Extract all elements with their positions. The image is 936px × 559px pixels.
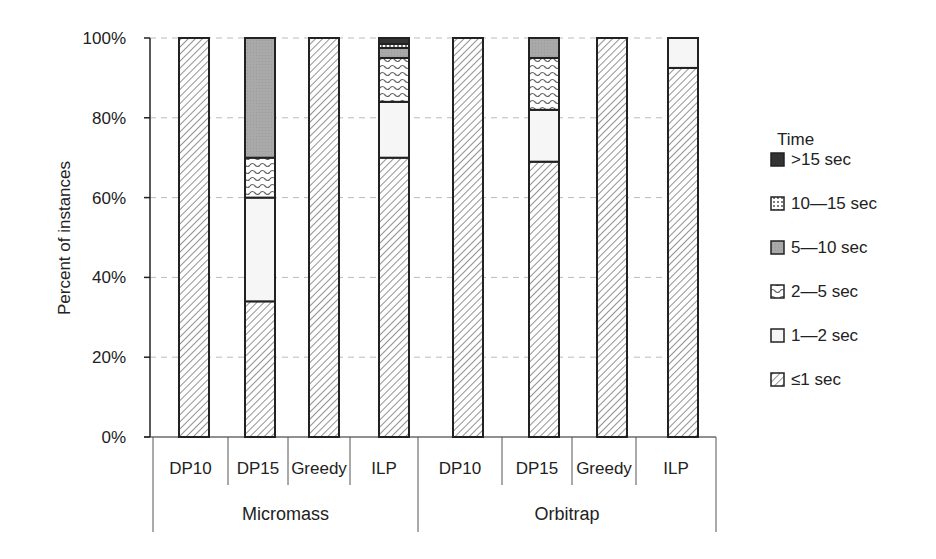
bar-segment bbox=[379, 38, 409, 44]
x-group-label: Orbitrap bbox=[534, 504, 599, 524]
bar-stack bbox=[453, 38, 483, 437]
bar-segment bbox=[529, 38, 559, 58]
bar-stack bbox=[597, 38, 627, 437]
x-category-label: DP15 bbox=[237, 459, 280, 478]
x-category-label: DP10 bbox=[439, 459, 482, 478]
bar-segment bbox=[597, 38, 627, 437]
legend-item-label: ≤1 sec bbox=[791, 370, 841, 389]
bar-segment bbox=[453, 38, 483, 437]
x-category-label: DP10 bbox=[169, 459, 212, 478]
bar-stack bbox=[379, 38, 409, 437]
bar-stack bbox=[309, 38, 339, 437]
bar-segment bbox=[245, 38, 275, 158]
bar-segment bbox=[245, 301, 275, 437]
x-category-label: DP15 bbox=[516, 459, 559, 478]
y-axis-label: Percent of instances bbox=[55, 161, 74, 315]
legend-item-label: >15 sec bbox=[791, 150, 852, 169]
y-tick-label: 0% bbox=[101, 428, 126, 447]
bar-segment bbox=[379, 48, 409, 58]
bar-stack bbox=[245, 38, 275, 437]
legend-title: Time bbox=[777, 130, 814, 149]
y-tick-label: 40% bbox=[92, 268, 126, 287]
legend: Time >15 sec10—15 sec5—10 sec2—5 sec1—2 … bbox=[771, 130, 877, 389]
y-tick-label: 60% bbox=[92, 189, 126, 208]
bar-stack bbox=[668, 38, 698, 437]
legend-swatch-icon bbox=[771, 241, 784, 254]
legend-swatch-icon bbox=[771, 153, 784, 166]
bar-segment bbox=[529, 110, 559, 162]
bars bbox=[179, 38, 698, 437]
legend-swatch-icon bbox=[771, 197, 784, 210]
x-category-label: Greedy bbox=[291, 459, 347, 478]
bar-segment bbox=[668, 68, 698, 437]
legend-swatch-icon bbox=[771, 285, 784, 298]
x-category-label: ILP bbox=[663, 459, 689, 478]
bar-stack bbox=[179, 38, 209, 437]
legend-item-label: 1—2 sec bbox=[791, 326, 859, 345]
bar-segment bbox=[668, 38, 698, 68]
y-tick-label: 80% bbox=[92, 109, 126, 128]
bar-segment bbox=[179, 38, 209, 437]
bar-stack bbox=[529, 38, 559, 437]
legend-swatch-icon bbox=[771, 329, 784, 342]
x-axis-categories: DP10DP15GreedyILPMicromassDP10DP15Greedy… bbox=[153, 437, 716, 532]
legend-item-label: 10—15 sec bbox=[791, 194, 877, 213]
y-axis-ticks: 0%20%40%60%80%100% bbox=[83, 29, 150, 447]
stacked-bar-chart: 0%20%40%60%80%100% DP10DP15GreedyILPMicr… bbox=[0, 0, 936, 559]
x-category-label: ILP bbox=[371, 459, 397, 478]
bar-segment bbox=[529, 58, 559, 110]
x-category-label: Greedy bbox=[576, 459, 632, 478]
x-group-label: Micromass bbox=[242, 504, 329, 524]
bar-segment bbox=[379, 102, 409, 158]
bar-segment bbox=[529, 162, 559, 437]
axes bbox=[144, 38, 716, 437]
legend-item-label: 2—5 sec bbox=[791, 282, 859, 301]
legend-item-label: 5—10 sec bbox=[791, 238, 868, 257]
bar-segment bbox=[309, 38, 339, 437]
bar-segment bbox=[379, 58, 409, 102]
legend-swatch-icon bbox=[771, 373, 784, 386]
y-tick-label: 100% bbox=[83, 29, 126, 48]
y-tick-label: 20% bbox=[92, 348, 126, 367]
bar-segment bbox=[379, 158, 409, 437]
bar-segment bbox=[245, 198, 275, 302]
bar-segment bbox=[245, 158, 275, 198]
